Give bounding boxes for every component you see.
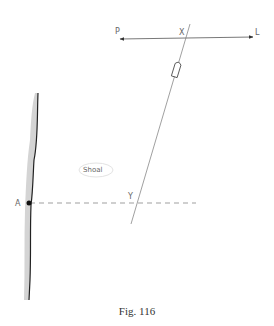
- label-l: L: [255, 28, 260, 37]
- label-a: A: [15, 199, 21, 208]
- label-y: Y: [127, 192, 133, 201]
- track-line: [131, 24, 190, 224]
- label-p: P: [115, 27, 120, 36]
- point-a-marker: [27, 201, 32, 206]
- diagram-canvas: P L X Y A Shoal: [0, 0, 274, 326]
- coastline-shading: [24, 93, 38, 300]
- label-x: X: [179, 28, 185, 37]
- boat-icon: [171, 62, 181, 78]
- bearing-line-p-l: [120, 37, 253, 39]
- label-shoal: Shoal: [83, 166, 102, 174]
- figure-caption: Fig. 116: [0, 305, 274, 317]
